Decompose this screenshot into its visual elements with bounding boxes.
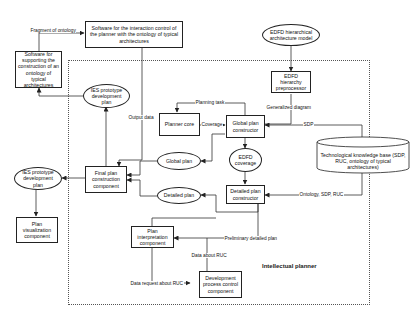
- edge-label-data-request-about-ruc: Data request about RUC: [130, 281, 184, 286]
- knowledge-base-label: Technological knowledge base (SDP, RUC, …: [316, 152, 410, 171]
- detailed-plan-constructor-box: Detailed plan constructor: [226, 185, 265, 204]
- plan-interpretation-box: Plan interpretation component: [131, 226, 174, 248]
- interaction-control-software-box: Software for the interaction control of …: [85, 21, 183, 48]
- final-plan-construction-box: Final plan construction component: [85, 166, 127, 193]
- global-plan-ellipse: Global plan: [157, 152, 201, 170]
- ies-plan-left-ellipse: IES prototype development plan: [14, 167, 62, 190]
- edge-label-sdp: SDP: [303, 122, 314, 127]
- development-process-control-box: Development process control component: [199, 271, 242, 298]
- ontology-support-software-box: Software for supporting the construction…: [15, 51, 62, 88]
- planner-core-box: Planner core: [159, 113, 200, 136]
- edfd-model-ellipse: EDFD hierarchical architecture model: [262, 24, 320, 46]
- edge-label-ontology-sdp-ruc: Ontology, SDP, RUC: [299, 192, 344, 197]
- edge-label-output-data: Output data: [128, 115, 154, 120]
- global-plan-constructor-box: Global plan constructor: [226, 115, 265, 138]
- plan-visualization-box: Plan visualization component: [16, 217, 58, 243]
- edge-label-preliminary-detailed-plan: Preliminary detailed plan: [224, 236, 278, 241]
- edfd-coverage-ellipse: EDFD coverage: [229, 148, 262, 172]
- diagram-canvas: Intellectual planner: [0, 0, 412, 318]
- edge-label-generalized-diagram: Generalized diagram: [266, 105, 312, 110]
- edge-label-planning-task: Planning task: [195, 100, 225, 105]
- edfd-preprocessor-box: EDFD hierarchy preprocessor: [271, 71, 311, 93]
- ies-plan-top-ellipse: IES prototype development plan: [83, 84, 130, 108]
- edge-label-fragment-of-ontology: Fragment of ontology: [30, 28, 76, 33]
- detailed-plan-ellipse: Detailed plan: [157, 187, 201, 204]
- technological-knowledge-base-cylinder: Technological knowledge base (SDP, RUC, …: [316, 136, 410, 174]
- edge-label-data-about-ruc: Data about RUC: [191, 253, 227, 258]
- edge-label-coverage: Coverage: [201, 122, 223, 127]
